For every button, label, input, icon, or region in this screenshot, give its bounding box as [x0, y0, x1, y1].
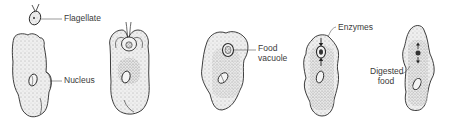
- enzymes-leader-line: [328, 27, 336, 37]
- flagellate-label: Flagellate: [64, 14, 101, 24]
- digested-food-label-line2: food: [370, 77, 402, 87]
- stage-5: [403, 26, 434, 111]
- flagellate-organism: [27, 4, 42, 26]
- stage-3: [202, 32, 248, 110]
- stage-4: [304, 35, 339, 116]
- stage-1: [12, 4, 62, 117]
- amoeba-1: [12, 34, 51, 117]
- enzymes-label: Enzymes: [338, 23, 373, 33]
- phagocytosis-diagram: Flagellate Nucleus Food vacuole Enzymes …: [0, 0, 450, 124]
- nucleus-label: Nucleus: [64, 76, 95, 86]
- stage-2: [110, 22, 150, 114]
- food-vacuole-label-line2: vacuole: [258, 54, 287, 64]
